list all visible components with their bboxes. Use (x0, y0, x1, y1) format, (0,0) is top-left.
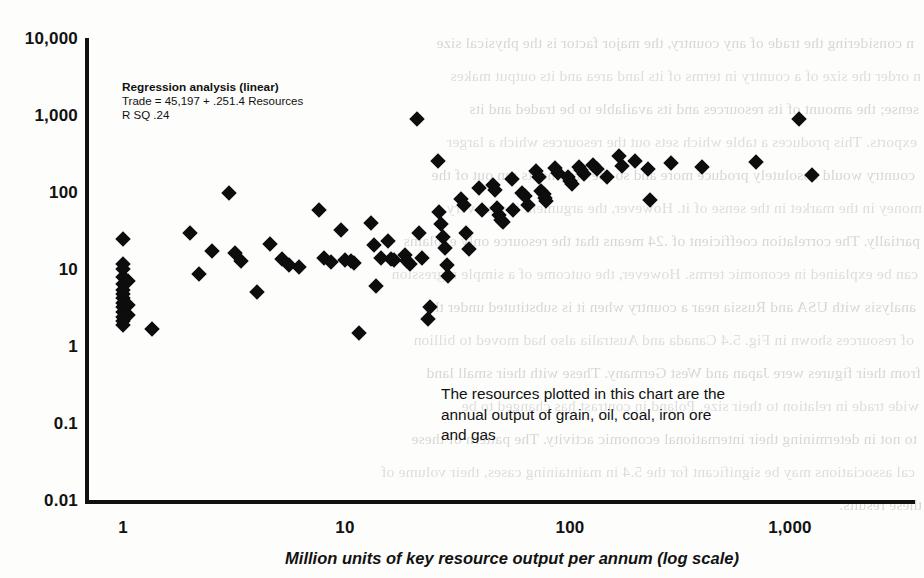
data-point (461, 242, 477, 258)
data-point (791, 111, 807, 127)
data-point (640, 162, 656, 178)
data-point (380, 233, 396, 249)
data-point (422, 299, 438, 315)
data-point (506, 202, 522, 218)
data-point (369, 278, 385, 294)
data-point (459, 225, 475, 241)
data-point (204, 243, 220, 259)
data-point (221, 185, 237, 201)
data-point (694, 159, 710, 175)
data-point (430, 153, 446, 169)
data-point (115, 231, 131, 247)
data-point (249, 284, 265, 300)
data-point (440, 268, 456, 284)
data-point (191, 266, 207, 282)
data-point (409, 111, 425, 127)
data-point (474, 202, 490, 218)
data-point (642, 192, 658, 208)
chart-page: n considering the trade of any country, … (0, 0, 924, 578)
data-point (311, 202, 327, 218)
data-point (351, 325, 367, 341)
data-point (748, 154, 764, 170)
data-point (182, 225, 198, 241)
data-point (334, 222, 350, 238)
data-point (663, 156, 679, 172)
data-point (420, 312, 436, 328)
data-point (411, 225, 427, 241)
data-point (804, 167, 820, 183)
data-point (504, 171, 520, 187)
data-point (263, 236, 279, 252)
data-points-layer (0, 0, 924, 578)
data-point (471, 180, 487, 196)
data-point (437, 241, 453, 257)
data-point (144, 321, 160, 337)
data-point (363, 215, 379, 231)
